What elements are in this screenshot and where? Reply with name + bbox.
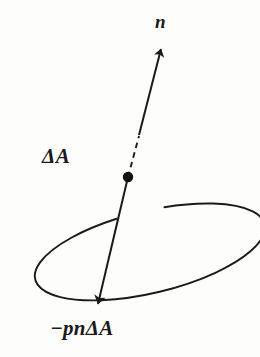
pressure-force-arrow — [98, 177, 128, 304]
area-element-label: ΔA — [42, 146, 70, 167]
surface-point-dot — [123, 172, 133, 182]
normal-vector-label: n — [155, 12, 166, 31]
normal-hidden-dashed-segment — [128, 136, 139, 177]
area-element-ellipse — [26, 185, 260, 319]
diagram-svg — [0, 0, 260, 357]
ellipse-outline-arc — [26, 185, 260, 319]
pressure-force-label: −pnΔA — [50, 318, 114, 339]
figure-canvas: n ΔA −pnΔA — [0, 0, 260, 357]
normal-vector-arrow — [139, 49, 161, 135]
